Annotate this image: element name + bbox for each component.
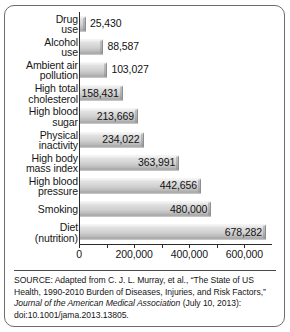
bar-wrapper: 234,022 — [79, 132, 144, 147]
bar-wrapper: 158,431 — [79, 86, 123, 101]
chart-row: Physical inactivity 234,022 — [6, 128, 283, 151]
bar-rows: Drug use 25,430 Alcohol use 88,587 Ambie… — [6, 12, 283, 244]
bar-value-label: 213,669 — [97, 111, 134, 122]
bar-wrapper: 442,656 — [79, 178, 201, 193]
source-divider — [14, 270, 276, 271]
category-label: High body mass index — [6, 152, 78, 173]
x-axis-tick — [107, 244, 108, 248]
chart-row: High blood pressure 442,656 — [6, 174, 283, 197]
bar-value-label: 678,282 — [225, 227, 262, 238]
bar — [79, 62, 107, 77]
x-axis-tick — [217, 244, 218, 248]
source-line-3-prefix: Factors,” — [232, 287, 265, 297]
category-label: High blood pressure — [6, 175, 78, 196]
category-label: Alcohol use — [6, 36, 78, 57]
chart-row: High total cholesterol 158,431 — [6, 82, 283, 105]
bar-value-label: 88,587 — [107, 41, 139, 52]
x-axis-tick-label: 400,000 — [171, 249, 208, 260]
bar-wrapper: 213,669 — [79, 109, 138, 124]
bar-value-label: 363,991 — [138, 157, 175, 168]
source-journal-name: Journal of the American Medical Associat… — [14, 298, 180, 308]
bar-chart: Drug use 25,430 Alcohol use 88,587 Ambie… — [6, 12, 283, 257]
bar-value-label: 25,430 — [90, 18, 122, 29]
x-axis-line — [79, 244, 272, 245]
bar — [79, 39, 103, 54]
bar — [79, 16, 86, 31]
chart-row: Smoking 480,000 — [6, 198, 283, 221]
x-axis-tick-label: 200,000 — [116, 249, 153, 260]
chart-row: Drug use 25,430 — [6, 12, 283, 35]
bar-value-label: 442,656 — [160, 180, 197, 191]
bar-wrapper: 480,000 — [79, 202, 211, 217]
category-label: Smoking — [6, 204, 78, 215]
bar-wrapper: 678,282 — [79, 225, 266, 240]
chart-row: High blood sugar 213,669 — [6, 105, 283, 128]
figure-container: Drug use 25,430 Alcohol use 88,587 Ambie… — [0, 0, 290, 332]
category-label: Physical inactivity — [6, 129, 78, 150]
category-label: Drug use — [6, 13, 78, 34]
category-label: Ambient air pollution — [6, 59, 78, 80]
bar-wrapper: 25,430 — [79, 16, 86, 31]
category-label: Diet (nutrition) — [6, 222, 78, 243]
source-line-1: SOURCE: Adapted from C. J. L. Murray, et… — [14, 275, 254, 285]
source-line-2: Health, 1990-2010 Burden of Diseases, In… — [14, 287, 230, 297]
y-axis-line — [79, 12, 80, 244]
bar-wrapper: 88,587 — [79, 39, 103, 54]
bar-wrapper: 103,027 — [79, 62, 107, 77]
chart-row: High body mass index 363,991 — [6, 151, 283, 174]
category-label: High total cholesterol — [6, 83, 78, 104]
bar-value-label: 480,000 — [170, 204, 207, 215]
bar-value-label: 103,027 — [111, 64, 148, 75]
bar-wrapper: 363,991 — [79, 155, 179, 170]
x-axis-tick — [162, 244, 163, 248]
source-line-3-suffix: (July 10, — [180, 298, 214, 308]
bar-value-label: 158,431 — [81, 88, 118, 99]
category-label: High blood sugar — [6, 106, 78, 127]
chart-row: Ambient air pollution 103,027 — [6, 58, 283, 81]
chart-row: Alcohol use 88,587 — [6, 35, 283, 58]
bar-value-label: 234,022 — [102, 134, 139, 145]
x-axis-tick-label: 0 — [76, 249, 82, 260]
source-note: SOURCE: Adapted from C. J. L. Murray, et… — [14, 275, 278, 321]
chart-row: Diet (nutrition) 678,282 — [6, 221, 283, 244]
x-axis-tick-label: 600,000 — [226, 249, 263, 260]
